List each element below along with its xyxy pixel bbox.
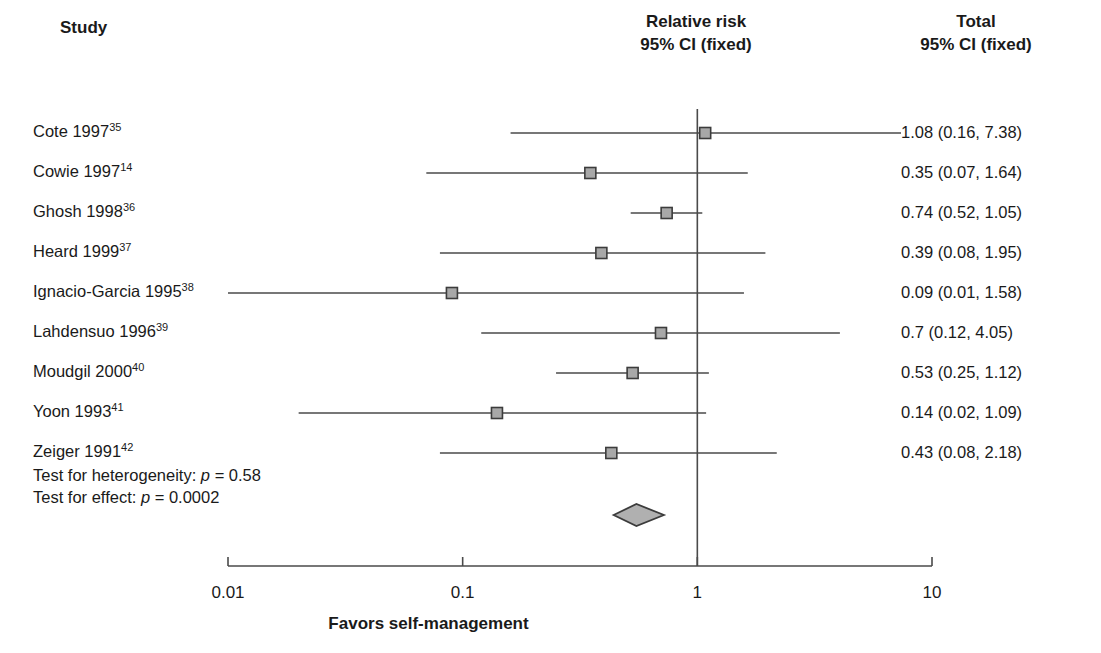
point-estimate-marker [585, 168, 596, 179]
x-axis-tick-label: 0.1 [451, 583, 475, 603]
point-estimate-marker [596, 248, 607, 259]
test-heterogeneity-prefix: Test for heterogeneity: [33, 466, 201, 484]
forest-row [556, 368, 709, 379]
test-for-heterogeneity: Test for heterogeneity: p = 0.58 [33, 465, 261, 486]
point-estimate-marker [606, 448, 617, 459]
point-estimate-marker [661, 208, 672, 219]
point-estimate-marker [627, 368, 638, 379]
point-estimate-marker [655, 328, 666, 339]
forest-row [440, 248, 765, 259]
x-axis-title: Favors self-management [0, 614, 1101, 634]
test-heterogeneity-value: = 0.58 [210, 466, 261, 484]
forest-plot-figure: Study Relative risk 95% CI (fixed) Total… [0, 0, 1101, 653]
test-for-effect: Test for effect: p = 0.0002 [33, 487, 219, 508]
forest-row [426, 168, 747, 179]
summary-diamond [614, 504, 664, 526]
test-effect-value: = 0.0002 [150, 488, 219, 506]
x-axis-tick-label: 10 [923, 583, 942, 603]
x-axis-tick-label: 1 [693, 583, 702, 603]
test-effect-p-symbol: p [141, 488, 150, 506]
forest-row [511, 128, 901, 139]
forest-row [440, 448, 777, 459]
point-estimate-marker [491, 408, 502, 419]
forest-row [299, 408, 706, 419]
test-heterogeneity-p-symbol: p [201, 466, 210, 484]
x-axis-tick-label: 0.01 [211, 583, 244, 603]
point-estimate-marker [446, 288, 457, 299]
forest-row [228, 288, 744, 299]
forest-plot-canvas [0, 0, 1101, 653]
point-estimate-marker [700, 128, 711, 139]
forest-row [481, 328, 840, 339]
test-effect-prefix: Test for effect: [33, 488, 141, 506]
x-axis-title-text: Favors self-management [328, 614, 528, 633]
forest-row [631, 208, 703, 219]
